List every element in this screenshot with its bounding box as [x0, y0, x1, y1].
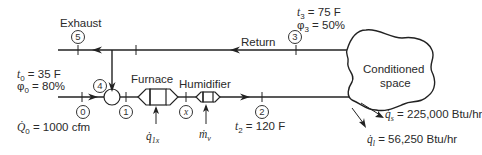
state-2-temperature: t2 = 120 F	[235, 120, 285, 134]
state-x-node: x	[179, 105, 193, 119]
state-5-node: 5	[71, 30, 85, 44]
humidifier-water-input: ṁv	[199, 128, 211, 142]
return-label: Return	[241, 36, 276, 48]
state-3-temperature: t3 = 75 F	[297, 6, 341, 20]
state-3-humidity: φ3 = 50%	[297, 19, 345, 33]
furnace-unit	[138, 89, 178, 105]
conditioned-space-label-2: space	[380, 77, 411, 89]
humidifier-label: Humidifier	[179, 78, 231, 90]
conditioned-space-label-1: Conditioned	[363, 63, 424, 75]
exhaust-label: Exhaust	[60, 17, 102, 29]
furnace-label: Furnace	[131, 73, 173, 85]
state-1-node: 1	[119, 105, 133, 119]
volumetric-flow: Q̇0 = 1000 cfm	[17, 121, 90, 135]
latent-heat-load: q̇l = 56,250 Btu/hr	[367, 133, 457, 147]
furnace-heat-input: q̇1x	[146, 130, 159, 144]
state-2-node: 2	[255, 105, 269, 119]
state-0-humidity: φ0 = 80%	[17, 80, 65, 94]
state-0-node: 0	[76, 105, 90, 119]
humidifier-unit	[196, 92, 220, 102]
sensible-heat-arrow-icon	[375, 111, 384, 118]
state-4-node: 4	[93, 79, 107, 93]
sensible-heat-load: q̇s = 225,000 Btu/hr	[385, 108, 482, 122]
